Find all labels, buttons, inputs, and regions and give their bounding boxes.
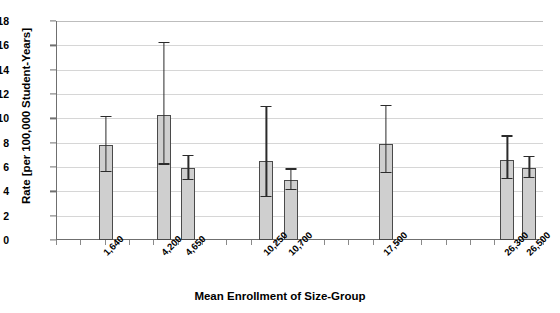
gridline xyxy=(57,45,543,46)
y-axis-tick-label: 14 xyxy=(0,64,9,76)
error-bar xyxy=(100,116,112,172)
x-axis-tick-mark xyxy=(348,240,349,245)
y-axis-tick-label: 6 xyxy=(0,161,9,173)
x-axis-tick-mark xyxy=(226,240,227,245)
error-bar xyxy=(501,135,513,179)
error-bar-stem xyxy=(105,116,106,172)
y-axis-tick-label: 10 xyxy=(0,112,9,124)
y-axis-tick-label: 2 xyxy=(0,210,9,222)
x-axis-tick-mark xyxy=(373,240,374,245)
gridline xyxy=(57,70,543,71)
error-bar-cap-lower xyxy=(380,172,391,173)
error-bar-stem xyxy=(507,135,508,179)
error-bar-cap-lower xyxy=(100,171,111,172)
error-bar-stem xyxy=(266,106,267,197)
error-bar-stem xyxy=(385,105,386,173)
gridline xyxy=(57,94,543,95)
error-bar-stem xyxy=(529,156,530,178)
gridline xyxy=(57,21,543,22)
x-axis-tick-mark xyxy=(446,240,447,245)
x-axis-tick-mark xyxy=(129,240,130,245)
y-axis-tick-label: 8 xyxy=(0,137,9,149)
error-bar-cap-upper xyxy=(261,106,272,107)
error-bar xyxy=(285,168,297,190)
gridline xyxy=(57,167,543,168)
error-bar xyxy=(380,105,392,173)
error-bar-cap-upper xyxy=(502,135,513,136)
error-bar-cap-lower xyxy=(159,163,170,164)
error-bar-cap-upper xyxy=(380,105,391,106)
bar xyxy=(522,168,536,240)
gridline xyxy=(57,191,543,192)
error-bar-cap-lower xyxy=(183,179,194,180)
error-bar-cap-upper xyxy=(524,156,535,157)
error-bar-cap-lower xyxy=(502,178,513,179)
error-bar-cap-upper xyxy=(100,116,111,117)
chart-root: Rate [per 100,000 Student-Years] 0246810… xyxy=(0,0,560,313)
plot-area xyxy=(56,21,543,240)
error-bar xyxy=(182,155,194,181)
error-bar-cap-lower xyxy=(524,177,535,178)
error-bar-cap-upper xyxy=(285,168,296,169)
y-axis-title: Rate [per 100,000 Student-Years] xyxy=(20,0,32,236)
error-bar-stem xyxy=(290,168,291,190)
y-axis-tick-label: 18 xyxy=(0,15,9,27)
error-bar-cap-upper xyxy=(159,42,170,43)
x-axis-tick-mark xyxy=(421,240,422,245)
y-axis-tick-label: 16 xyxy=(0,39,9,51)
y-axis-tick-label: 4 xyxy=(0,185,9,197)
x-axis-tick-mark xyxy=(470,240,471,245)
error-bar-stem xyxy=(164,42,165,165)
error-bar xyxy=(523,156,535,178)
gridline xyxy=(57,118,543,119)
x-axis-tick-mark xyxy=(80,240,81,245)
x-axis-tick-mark xyxy=(251,240,252,245)
error-bar-stem xyxy=(188,155,189,181)
error-bar-cap-lower xyxy=(285,189,296,190)
error-bar xyxy=(158,42,170,165)
x-axis-tick-mark xyxy=(56,240,57,245)
x-axis-tick-mark xyxy=(494,240,495,245)
error-bar-cap-upper xyxy=(183,155,194,156)
x-axis-tick-mark xyxy=(324,240,325,245)
gridline xyxy=(57,143,543,144)
x-axis-title: Mean Enrollment of Size-Group xyxy=(0,290,560,302)
error-bar-cap-lower xyxy=(261,196,272,197)
y-axis-tick-label: 0 xyxy=(0,234,9,246)
x-axis-tick-mark xyxy=(153,240,154,245)
gridline xyxy=(57,216,543,217)
y-axis-tick-label: 12 xyxy=(0,88,9,100)
error-bar xyxy=(260,106,272,197)
